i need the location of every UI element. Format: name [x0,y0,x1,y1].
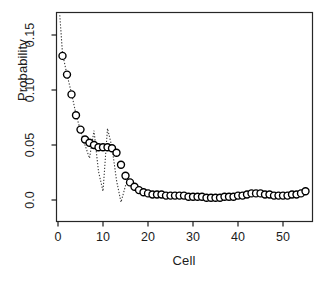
x-tick-label-3: 30 [178,230,208,244]
data-point-marker [59,52,66,59]
data-point-marker [302,188,309,195]
y-tick-label-0: 0.0 [23,180,37,220]
data-point-marker [118,161,125,168]
chart-figure: Probability Cell 0.00.050.100.15 0102030… [0,0,328,283]
y-tick-label-1: 0.05 [23,125,37,165]
y-tick-label-2: 0.10 [23,70,37,110]
data-point-marker [113,149,120,156]
x-tick-label-4: 40 [223,230,253,244]
x-tick-label-1: 10 [88,230,118,244]
data-point-marker [73,112,80,119]
x-tick-label-5: 50 [268,230,298,244]
x-axis-title-wrapper: Cell [124,253,244,268]
x-tick-label-0: 0 [43,230,73,244]
x-tick-label-2: 20 [133,230,163,244]
x-axis-title: Cell [173,253,196,268]
data-point-marker [77,126,84,133]
y-tick-label-3: 0.15 [23,15,37,55]
data-point-marker [122,172,129,179]
data-point-marker [68,91,75,98]
data-point-marker [64,71,71,78]
